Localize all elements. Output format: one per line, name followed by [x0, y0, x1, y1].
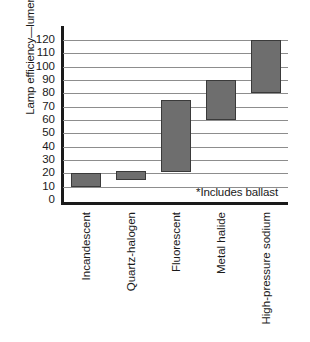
y-tick-label: 100: [21, 61, 55, 72]
y-tick-label: 80: [21, 87, 55, 98]
gridline-80: [63, 93, 288, 94]
x-label-quartz-halogen: Quartz-halogen: [123, 212, 139, 332]
y-tick-label: 50: [21, 127, 55, 138]
bar-metal-halide: [206, 80, 236, 120]
x-label-metal-halide: Metal halide: [213, 212, 229, 332]
y-tick-label: 20: [21, 167, 55, 178]
y-tick-label: 110: [21, 47, 55, 58]
y-tick-label: 90: [21, 74, 55, 85]
gridlines-and-bars: [63, 28, 288, 202]
y-tick-label: 120: [21, 34, 55, 45]
bar-fluorescent: [161, 100, 191, 172]
bar-quartz-halogen: [116, 171, 146, 180]
y-tick-label: 40: [21, 141, 55, 152]
x-label-high-pressure-sodium: High-pressure sodium: [258, 212, 274, 332]
y-tick-label: 10: [21, 181, 55, 192]
plot-area: [63, 28, 288, 202]
x-label-fluorescent: Fluorescent: [168, 212, 184, 332]
y-tick-label: 30: [21, 154, 55, 165]
x-axis-line: [61, 202, 288, 205]
bar-incandescent: [71, 173, 101, 186]
y-tick-label: 70: [21, 101, 55, 112]
y-tick-label: 0: [21, 194, 55, 205]
lamp-efficiency-chart: Lamp efficiency—lumens/watt* *Includes b…: [0, 0, 310, 342]
footnote-includes-ballast: *Includes ballast: [196, 186, 278, 198]
bar-high-pressure-sodium: [251, 40, 281, 93]
x-axis-category-labels: IncandescentQuartz-halogenFluorescentMet…: [0, 212, 310, 342]
x-label-incandescent: Incandescent: [78, 212, 94, 332]
y-tick-label: 60: [21, 114, 55, 125]
